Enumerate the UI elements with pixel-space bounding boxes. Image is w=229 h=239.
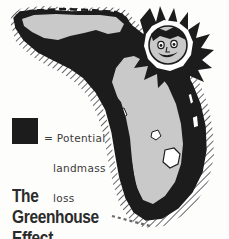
title-line-1: The Greenhouse xyxy=(12,186,124,228)
sun-pupil-left xyxy=(160,44,163,47)
legend-line-2: landmass xyxy=(44,161,139,176)
sun-pupil-right xyxy=(173,43,176,46)
illustration-title: The Greenhouse Effect xyxy=(12,186,124,239)
legend-line-1: = Potential xyxy=(44,131,139,146)
legend-color-swatch xyxy=(12,118,38,144)
title-line-2: Effect xyxy=(12,228,124,239)
illustration-canvas: = Potential landmass loss The Greenhouse… xyxy=(0,0,229,239)
